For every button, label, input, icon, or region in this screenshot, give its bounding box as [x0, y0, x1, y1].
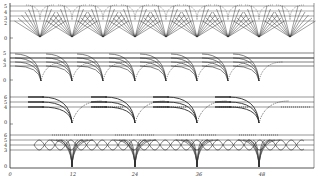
panel-3-y-label: 4	[4, 105, 7, 110]
panel-4-y-label: 0	[4, 164, 7, 169]
panel-3-y-label: 0	[4, 120, 7, 125]
x-tick-label: 36	[196, 171, 202, 177]
panel-1-y-label: 0	[4, 36, 7, 41]
panel-2-y-label: 0	[3, 78, 6, 83]
panel-1-y-label: 2	[4, 21, 7, 26]
x-tick-label: 24	[132, 171, 138, 177]
panel-3-curves	[10, 97, 314, 123]
diagram-canvas	[0, 0, 330, 180]
panel-4-curves	[10, 135, 314, 167]
panel-2-y-label: 5	[3, 51, 6, 56]
panel-4-y-label: 3	[4, 148, 7, 153]
x-tick-label: 12	[70, 171, 76, 177]
x-tick-label: 48	[259, 171, 265, 177]
panel-2-y-label: 3	[3, 63, 6, 68]
panel-2-curves	[10, 53, 314, 81]
x-tick-label: 0	[8, 171, 11, 177]
panel-1-curves	[10, 5, 316, 37]
